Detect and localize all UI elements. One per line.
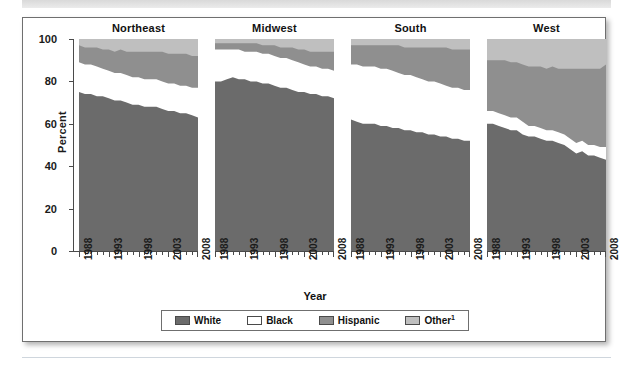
legend-item-black[interactable]: Black xyxy=(247,315,293,326)
x-tick-label: 2008 xyxy=(201,238,212,260)
panel-west xyxy=(487,39,606,251)
chart-legend: WhiteBlackHispanicOther1 xyxy=(161,310,469,331)
legend-item-white[interactable]: White xyxy=(175,315,221,326)
panel-northeast xyxy=(79,39,198,251)
y-tick-label: 0 xyxy=(23,246,57,256)
x-axis-title: Year xyxy=(23,290,607,302)
x-tick-label: 1998 xyxy=(551,238,562,260)
panel-title-northeast: Northeast xyxy=(79,22,198,34)
panel-south xyxy=(351,39,470,251)
x-tick-label: 1998 xyxy=(279,238,290,260)
page-bottom-rule xyxy=(22,357,611,358)
legend-swatch-black xyxy=(247,316,262,325)
x-tick-label: 2003 xyxy=(580,238,591,260)
legend-swatch-other xyxy=(405,316,420,325)
legend-label-black: Black xyxy=(266,315,293,326)
x-tick-label: 1993 xyxy=(385,238,396,260)
x-tick-label: 2008 xyxy=(473,238,484,260)
legend-swatch-white xyxy=(175,316,190,325)
panel-title-west: West xyxy=(487,22,606,34)
y-tick-label: 100 xyxy=(23,34,57,44)
area-white xyxy=(351,120,470,251)
page-top-band xyxy=(22,0,611,8)
x-tick-label: 1998 xyxy=(415,238,426,260)
legend-label-white: White xyxy=(194,315,221,326)
legend-item-other[interactable]: Other1 xyxy=(405,314,455,326)
y-axis-baseline-connector xyxy=(73,251,79,252)
legend-footnote-marker: 1 xyxy=(451,314,455,321)
x-tick-label: 1988 xyxy=(355,238,366,260)
x-tick-label: 1993 xyxy=(249,238,260,260)
x-tick-label: 1988 xyxy=(219,238,230,260)
area-white xyxy=(79,92,198,251)
x-tick-label: 1993 xyxy=(521,238,532,260)
y-tick-label: 20 xyxy=(23,204,57,214)
x-tick-label: 1998 xyxy=(143,238,154,260)
panel-title-midwest: Midwest xyxy=(215,22,334,34)
x-tick-label: 2008 xyxy=(337,238,348,260)
x-tick-label: 1988 xyxy=(491,238,502,260)
legend-label-other: Other1 xyxy=(424,314,455,326)
area-white xyxy=(215,77,334,251)
panel-title-south: South xyxy=(351,22,470,34)
y-tick-label: 60 xyxy=(23,119,57,129)
x-tick-label: 1993 xyxy=(113,238,124,260)
x-tick-label: 2008 xyxy=(609,238,620,260)
y-tick-label: 40 xyxy=(23,161,57,171)
chart-figure-box: Percent 020406080100 Northeast1988199319… xyxy=(22,17,606,342)
panel-midwest xyxy=(215,39,334,251)
x-tick-label: 2003 xyxy=(308,238,319,260)
figure-root: Percent 020406080100 Northeast1988199319… xyxy=(0,0,629,365)
x-tick-label: 1988 xyxy=(83,238,94,260)
legend-swatch-hispanic xyxy=(319,316,334,325)
plot-area: Percent 020406080100 Northeast1988199319… xyxy=(23,18,607,343)
x-tick-label: 2003 xyxy=(444,238,455,260)
legend-item-hispanic[interactable]: Hispanic xyxy=(319,315,380,326)
y-axis-line xyxy=(73,39,74,251)
x-tick-label: 2003 xyxy=(172,238,183,260)
y-tick-label: 80 xyxy=(23,76,57,86)
legend-label-hispanic: Hispanic xyxy=(338,315,380,326)
